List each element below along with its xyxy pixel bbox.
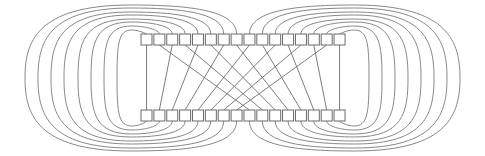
bottom-node-row [141,110,345,121]
edge-14-to-7 [237,45,327,110]
bottom-node-10 [270,110,281,121]
edge-13-to-14 [314,45,327,110]
edge-4-to-2 [172,45,198,110]
bottom-node-7 [231,110,242,121]
top-node-9 [257,34,268,45]
bottom-node-9 [257,110,268,121]
bottom-node-11 [283,110,294,121]
crossing-edges [147,45,340,110]
bottom-node-4 [192,110,203,121]
bottom-node-6 [218,110,229,121]
shuffle-network-diagram [0,0,485,156]
bottom-node-0 [141,110,152,121]
bottom-node-8 [244,110,255,121]
bottom-node-13 [308,110,319,121]
bottom-node-5 [205,110,216,121]
top-node-2 [167,34,178,45]
edge-11-to-13 [288,45,314,110]
top-node-8 [244,34,255,45]
edge-2-to-1 [159,45,172,110]
top-node-3 [180,34,191,45]
top-node-4 [192,34,203,45]
top-node-7 [231,34,242,45]
diagram-canvas [0,0,485,156]
top-node-13 [308,34,319,45]
top-node-14 [321,34,332,45]
top-node-1 [154,34,165,45]
top-node-row [141,34,345,45]
edge-12-to-6 [224,45,301,110]
loop-edge-right-10 [275,12,434,144]
bottom-node-12 [295,110,306,121]
bottom-node-1 [154,110,165,121]
top-node-5 [205,34,216,45]
edge-8-to-4 [198,45,249,110]
top-node-10 [270,34,281,45]
bottom-node-3 [180,110,191,121]
top-node-6 [218,34,229,45]
bottom-node-2 [167,110,178,121]
top-node-12 [295,34,306,45]
top-node-15 [334,34,345,45]
loop-edge-left-5 [51,12,211,144]
bottom-node-15 [334,110,345,121]
top-node-0 [141,34,152,45]
bottom-node-14 [321,110,332,121]
top-node-11 [283,34,294,45]
edge-6-to-3 [185,45,224,110]
